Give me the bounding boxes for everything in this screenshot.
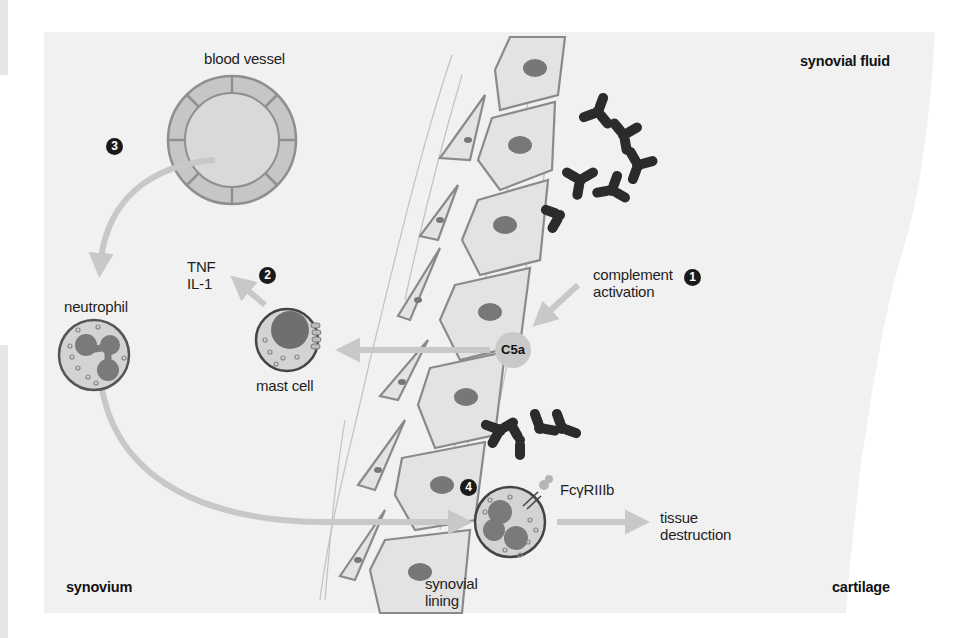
rheumatoid-arthritis-mechanism-diagram: blood vessel synovial fluid TNF IL-1 neu… [0,0,976,638]
step-4-marker: 4 [460,479,477,496]
synovial-fluid-label: synovial fluid [800,53,890,70]
margin-strip-bottom [0,345,8,638]
blood-vessel [168,76,296,204]
c5a-molecule: C5a [495,332,531,368]
synovium-label: synovium [66,579,132,596]
mast-cell-label: mast cell [256,377,313,394]
step-1-marker: 1 [684,269,701,286]
step-2-marker: 2 [259,267,276,284]
synovial-lining-label: synovial lining [425,575,478,609]
cartilage-label: cartilage [832,579,890,596]
tissue-destruction-label: tissue destruction [660,509,731,543]
complement-activation-label: complement activation [593,266,673,300]
fc-receptor-label: FcγRIIIb [560,481,614,498]
step-3-marker: 3 [106,138,123,155]
diagram-artwork [0,0,976,638]
neutrophil-cell [59,320,129,390]
margin-strip-top [0,0,8,75]
cytokines-label: TNF IL-1 [187,258,216,292]
neutrophil-label: neutrophil [64,298,128,315]
blood-vessel-label: blood vessel [204,50,285,67]
